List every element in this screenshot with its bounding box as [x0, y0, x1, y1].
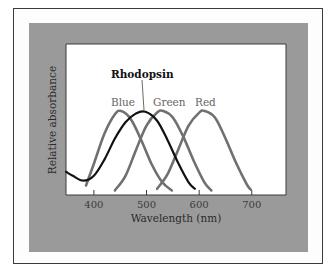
- x-tick-label: 400: [84, 199, 103, 210]
- green-label: Green: [153, 96, 186, 108]
- y-axis-label: Relative absorbance: [46, 66, 58, 174]
- red-label: Red: [195, 96, 216, 108]
- absorbance-chart: 400500600700 Rhodopsin Blue Green Red Wa…: [0, 0, 333, 275]
- x-tick-label: 700: [242, 199, 261, 210]
- x-tick-label: 600: [190, 199, 209, 210]
- x-axis-label: Wavelength (nm): [131, 212, 222, 224]
- rhodopsin-label: Rhodopsin: [111, 68, 174, 80]
- plot-area: [66, 44, 286, 195]
- x-tick-label: 500: [137, 199, 156, 210]
- blue-label: Blue: [111, 96, 135, 108]
